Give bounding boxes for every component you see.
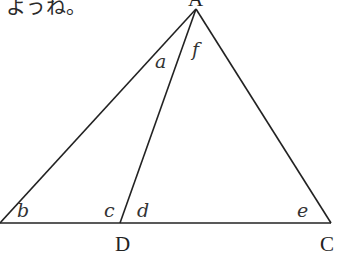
segment-ad bbox=[120, 9, 196, 223]
caption-text: ようね。 bbox=[6, 0, 86, 19]
angle-label-c: c bbox=[104, 199, 115, 221]
angle-label-f: f bbox=[190, 38, 202, 60]
point-label-a: A bbox=[188, 0, 204, 11]
angle-label-a: a bbox=[155, 50, 166, 72]
triangle-diagram: ようね。 A D C a f b c d e bbox=[0, 0, 344, 261]
angle-label-b: b bbox=[17, 199, 29, 221]
angle-label-e: e bbox=[297, 199, 308, 221]
side-ac bbox=[196, 9, 331, 223]
side-ab bbox=[0, 9, 196, 223]
point-label-d: D bbox=[115, 232, 130, 256]
point-label-c: C bbox=[320, 232, 334, 256]
angle-label-d: d bbox=[137, 199, 149, 221]
